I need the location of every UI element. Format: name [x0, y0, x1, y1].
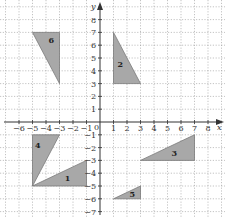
y-tick-label: 8	[91, 16, 96, 25]
triangle-label-4: 4	[35, 140, 41, 150]
x-tick-label: 7	[192, 124, 197, 133]
y-axis-label: y	[90, 2, 96, 11]
y-tick-label: 7	[91, 28, 96, 37]
x-tick-label: −6	[13, 124, 25, 133]
x-tick-label: 3	[138, 124, 143, 133]
coordinate-grid: 123456 xy0−6−5−4−3−2−11234567887654321−1…	[0, 0, 225, 217]
y-tick-label: −5	[84, 182, 96, 191]
x-tick-label: 5	[165, 124, 170, 133]
y-tick-label: −7	[84, 208, 96, 217]
y-tick-label: −4	[84, 169, 96, 178]
triangle-label-5: 5	[130, 189, 136, 199]
y-tick-label: 4	[91, 67, 96, 76]
x-tick-label: 8	[205, 124, 210, 133]
y-tick-label: −2	[84, 144, 96, 153]
y-axis-arrow-icon	[97, 2, 103, 10]
y-tick-label: −3	[84, 156, 96, 165]
y-tick-label: 1	[91, 105, 96, 114]
x-tick-label: 6	[178, 124, 183, 133]
y-tick-label: −1	[84, 131, 96, 140]
x-tick-label: 2	[124, 124, 129, 133]
x-tick-label: −4	[40, 124, 52, 133]
x-axis-label: x	[217, 123, 222, 132]
triangle-label-3: 3	[171, 148, 177, 158]
y-tick-label: 6	[91, 41, 96, 50]
y-tick-label: 5	[91, 54, 96, 63]
x-tick-label: 4	[151, 124, 156, 133]
x-tick-label: 1	[111, 124, 116, 133]
triangle-label-2: 2	[117, 59, 123, 69]
y-tick-label: −6	[84, 195, 96, 204]
y-tick-label: 3	[91, 80, 96, 89]
x-tick-label: −2	[67, 124, 79, 133]
x-tick-label: −3	[54, 124, 66, 133]
x-tick-label: −5	[27, 124, 39, 133]
y-tick-label: 2	[91, 92, 96, 101]
triangle-label-6: 6	[49, 35, 55, 45]
triangle-label-1: 1	[65, 173, 71, 183]
